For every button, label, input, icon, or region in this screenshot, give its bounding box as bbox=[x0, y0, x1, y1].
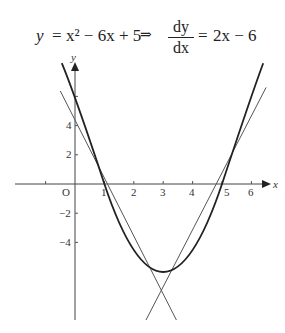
origin-label: O bbox=[62, 186, 70, 198]
x-tick-label-6: 6 bbox=[248, 186, 254, 198]
y-axis-label: y bbox=[70, 51, 76, 63]
y-axis-arrow-icon bbox=[71, 62, 79, 71]
x-axis-arrow-icon bbox=[262, 180, 271, 188]
x-axis-label: x bbox=[272, 178, 278, 190]
parabola-curve bbox=[62, 63, 263, 272]
x-tick-label-2: 2 bbox=[131, 186, 137, 198]
graph: x y O 1 2 3 4 5 6 4 2 −2 −4 bbox=[0, 0, 285, 333]
tangent-line-at-x5 bbox=[146, 87, 266, 320]
y-tick-label-neg4: −4 bbox=[59, 236, 71, 248]
y-tick-label-4: 4 bbox=[66, 119, 72, 131]
y-tick-label-neg2: −2 bbox=[59, 207, 71, 219]
x-tick-label-3: 3 bbox=[160, 186, 166, 198]
x-tick-label-4: 4 bbox=[189, 186, 195, 198]
tangent-line-at-x1 bbox=[60, 91, 176, 320]
y-tick-label-2: 2 bbox=[66, 148, 72, 160]
x-tick-label-5: 5 bbox=[224, 186, 230, 198]
